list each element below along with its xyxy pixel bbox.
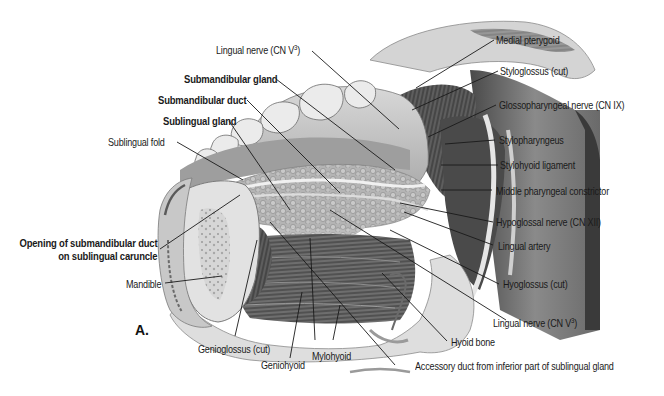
panel-letter: A. [135, 322, 149, 338]
label-geniohyoid: Geniohyoid [261, 359, 305, 371]
label-lingual-nerve-upper: Lingual nerve (CN V3) [216, 44, 300, 56]
label-styloglossus: Styloglossus (cut) [500, 65, 568, 77]
anatomy-figure: Lingual nerve (CN V3) Submandibular glan… [0, 0, 664, 396]
label-hypoglossal-nerve: Hypoglossal nerve (CN XII) [496, 216, 601, 228]
label-stylopharyngeus: Stylopharyngeus [499, 134, 564, 146]
label-mandible: Mandible [126, 278, 161, 290]
label-opening-submandibular-duct-line1: Opening of submandibular duct [19, 237, 157, 249]
label-lingual-artery: Lingual artery [498, 240, 550, 252]
label-mylohyoid: Mylohyoid [312, 350, 351, 362]
label-medial-pterygoid: Medial pterygoid [496, 34, 560, 46]
illustration [0, 0, 664, 396]
label-lingual-nerve-lower: Lingual nerve (CN V3) [493, 317, 577, 329]
label-submandibular-gland: Submandibular gland [184, 73, 277, 85]
label-submandibular-duct: Submandibular duct [158, 94, 246, 106]
label-middle-pharyngeal-constrictor: Middle pharyngeal constrictor [496, 185, 609, 197]
label-sublingual-fold: Sublingual fold [108, 136, 165, 148]
label-hyoid-bone: Hyoid bone [451, 336, 495, 348]
label-sublingual-gland: Sublingual gland [163, 115, 236, 127]
label-glossopharyngeal-nerve: Glossopharyngeal nerve (CN IX) [499, 99, 624, 111]
label-stylohyoid-ligament: Stylohyoid ligament [500, 159, 575, 171]
label-genioglossus: Genioglossus (cut) [198, 343, 270, 355]
label-accessory-duct: Accessory duct from inferior part of sub… [415, 360, 614, 372]
label-opening-submandibular-duct-line2: on sublingual caruncle [58, 250, 157, 262]
label-hyoglossus: Hyoglossus (cut) [503, 278, 568, 290]
